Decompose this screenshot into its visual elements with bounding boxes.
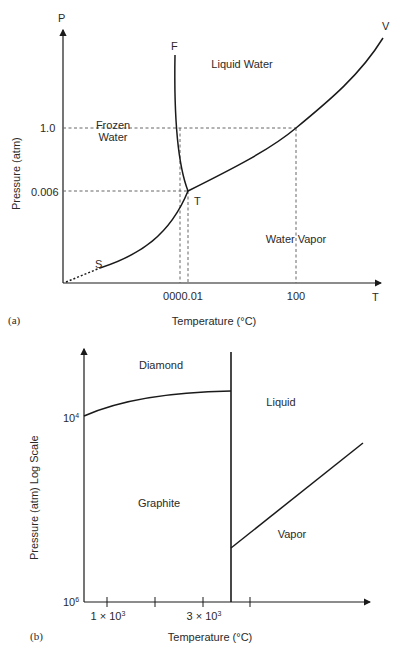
b-ytick-1e6-base: 10 — [63, 596, 75, 608]
b-xtick-1e3-exp: 3 — [121, 610, 125, 617]
b-y-axis-title: Pressure (atm) Log Scale — [28, 435, 40, 560]
b-x-axis-title: Temperature (°C) — [168, 631, 252, 643]
b-xtick-3e3-exp: 3 — [217, 610, 221, 617]
a-ytick-0006atm: 0.006 — [31, 186, 59, 198]
b-region-liquid: Liquid — [266, 396, 295, 408]
b-xtick-1e3: 1 × 103 — [91, 610, 126, 622]
a-xtick-100c: 100 — [287, 290, 305, 302]
a-region-frozen-1: Frozen — [96, 119, 130, 131]
b-diamond-graphite-boundary — [84, 391, 231, 416]
b-ytick-1e4-base: 10 — [63, 412, 75, 424]
a-fusion-curve — [175, 55, 188, 191]
b-region-diamond: Diamond — [139, 359, 183, 371]
a-point-t: T — [194, 195, 201, 207]
a-region-vapor: Water Vapor — [266, 233, 327, 245]
a-y-axis-symbol: P — [58, 12, 65, 24]
b-xtick-3e3-mant: 3 × 10 — [187, 610, 218, 622]
b-ytick-1e6: 106 — [63, 596, 79, 608]
a-sublimation-curve — [100, 191, 188, 268]
a-region-frozen-2: Water — [99, 131, 128, 143]
a-y-axis-title: Pressure (atm) — [10, 137, 22, 210]
b-region-graphite: Graphite — [138, 497, 180, 509]
a-point-f: F — [171, 40, 178, 52]
a-panel-label: (a) — [8, 314, 20, 326]
a-ytick-1atm: 1.0 — [40, 122, 55, 134]
phase-diagrams-canvas — [0, 0, 397, 658]
b-ytick-1e4: 104 — [63, 412, 79, 424]
b-ytick-1e4-exp: 4 — [75, 412, 79, 419]
b-region-vapor: Vapor — [278, 528, 307, 540]
b-ytick-1e6-exp: 6 — [75, 596, 79, 603]
a-sublimation-extrapolated — [66, 268, 100, 282]
a-x-axis-symbol: T — [372, 291, 379, 303]
b-panel-label: (b) — [30, 630, 43, 642]
a-xtick-0c: 0000.01 — [163, 290, 203, 302]
a-point-s: S — [95, 258, 102, 270]
b-xtick-1e3-mant: 1 × 10 — [91, 610, 122, 622]
b-xtick-3e3: 3 × 103 — [187, 610, 222, 622]
a-point-v: V — [382, 20, 389, 32]
a-x-axis-title: Temperature (°C) — [172, 315, 256, 327]
a-region-liquid: Liquid Water — [211, 58, 272, 70]
figure-b — [84, 349, 370, 607]
